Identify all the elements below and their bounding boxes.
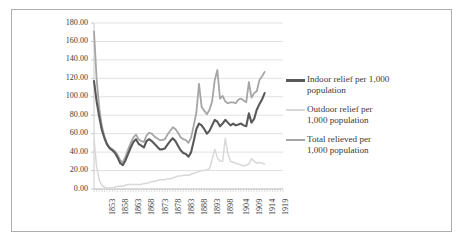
legend-item: Total relieved per 1,000 population — [286, 134, 446, 157]
x-tick-label: 1868 — [147, 199, 156, 215]
x-tick-label: 1873 — [161, 199, 170, 215]
chart-figure: 180.00160.00140.00120.00100.0080.0060.00… — [0, 0, 463, 243]
legend-swatch-total — [286, 139, 305, 141]
legend-label-total: Total relieved per 1,000 population — [307, 134, 371, 157]
y-tick-label: 80.00 — [46, 110, 88, 119]
x-tick-label: 1878 — [174, 199, 183, 215]
x-tick-label: 1858 — [121, 199, 130, 215]
x-tick-label: 1909 — [255, 199, 264, 215]
x-tick-label: 1898 — [226, 199, 235, 215]
y-tick-label: 20.00 — [46, 165, 88, 174]
chart-frame: 180.00160.00140.00120.00100.0080.0060.00… — [11, 9, 452, 232]
legend-item: Outdoor relief per 1,000 population — [286, 104, 446, 127]
y-tick-label: 180.00 — [46, 18, 88, 27]
x-tick-label: 1914 — [268, 199, 277, 215]
legend-label-outdoor: Outdoor relief per 1,000 population — [307, 104, 373, 127]
y-tick-label: 0.00 — [46, 184, 88, 193]
y-tick-label: 100.00 — [46, 91, 88, 100]
x-tick-label: 1863 — [134, 199, 143, 215]
legend-swatch-outdoor — [286, 109, 305, 111]
y-tick-label: 140.00 — [46, 54, 88, 63]
x-tick-label: 1853 — [108, 199, 117, 215]
plot-area: 180.00160.00140.00120.00100.0080.0060.00… — [12, 10, 453, 233]
legend-swatch-indoor — [286, 79, 305, 82]
x-tick-label: 1919 — [281, 199, 290, 215]
x-tick-label: 1904 — [242, 199, 251, 215]
x-tick-label: 1888 — [200, 199, 209, 215]
legend-label-indoor: Indoor relief per 1,000 population — [307, 74, 389, 97]
y-tick-label: 60.00 — [46, 128, 88, 137]
x-tick-label: 1893 — [213, 199, 222, 215]
legend-item: Indoor relief per 1,000 population — [286, 74, 446, 97]
x-tick-label: 1883 — [187, 199, 196, 215]
y-tick-label: 40.00 — [46, 147, 88, 156]
y-tick-label: 120.00 — [46, 73, 88, 82]
chart-legend: Indoor relief per 1,000 population Outdo… — [286, 74, 446, 163]
data-series-group — [94, 31, 265, 188]
y-tick-label: 160.00 — [46, 36, 88, 45]
